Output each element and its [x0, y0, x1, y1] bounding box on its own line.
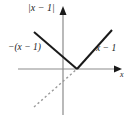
- graph-canvas: [0, 0, 131, 123]
- absolute-value-graph-figure: |x − 1| −(x − 1) x − 1 x: [0, 0, 131, 123]
- right-branch-label: x − 1: [96, 44, 116, 54]
- y-axis-label: |x − 1|: [28, 3, 55, 13]
- x-axis-label: x: [120, 71, 124, 79]
- left-branch-label: −(x − 1): [8, 43, 41, 53]
- dashed-reflected-branch: [34, 69, 77, 107]
- y-axis-arrowhead: [60, 6, 67, 15]
